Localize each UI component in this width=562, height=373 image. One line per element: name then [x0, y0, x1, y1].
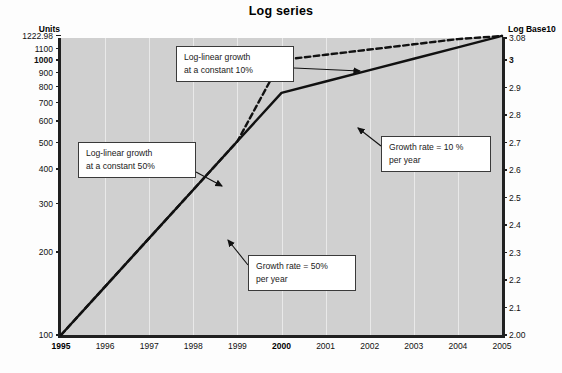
y-axis-label-right-2.1: 2.1: [509, 303, 521, 313]
y-axis-label-right-2.6: 2.6: [509, 165, 521, 175]
y-axis-label-right-2.00: 2.00: [509, 330, 526, 340]
y-tick-right: [502, 87, 507, 89]
y-axis-label-right-3: 3: [509, 55, 514, 65]
x-axis-label-2005: 2005: [493, 341, 512, 351]
gridline-2004: [458, 38, 459, 335]
x-axis-label-1995: 1995: [52, 341, 71, 351]
gridline-2003: [414, 38, 415, 335]
y-tick-left: [56, 251, 61, 253]
y-axis-label-right-2.7: 2.7: [509, 138, 521, 148]
y-tick-left: [56, 59, 61, 61]
x-axis-label-2002: 2002: [360, 341, 379, 351]
x-axis-label-2004: 2004: [448, 341, 467, 351]
y-axis-label-left-300: 300: [39, 199, 53, 209]
y-axis-label-right-2.8: 2.8: [509, 110, 521, 120]
gridline-1997: [149, 38, 150, 335]
y-axis-label-left-900: 900: [39, 68, 53, 78]
y-tick-left: [56, 48, 61, 50]
y-axis-label-right-3.08: 3.08: [509, 33, 526, 43]
y-axis-label-left-800: 800: [39, 82, 53, 92]
plot-area: [58, 38, 505, 338]
callout-log-linear-10: Log-linear growth at a constant 10%: [176, 46, 294, 82]
y-tick-right: [502, 334, 507, 336]
gridline-1998: [193, 38, 194, 335]
y-tick-left: [56, 72, 61, 74]
x-axis-label-1997: 1997: [140, 341, 159, 351]
y-axis-label-left-500: 500: [39, 138, 53, 148]
chart-title: Log series: [0, 4, 562, 18]
y-tick-right: [502, 279, 507, 281]
y-tick-right: [502, 169, 507, 171]
x-axis-label-1999: 1999: [228, 341, 247, 351]
chart-container: Log series Units Log Base10 1222.9811001…: [0, 0, 562, 373]
y-axis-label-left-1000: 1000: [34, 55, 53, 65]
x-axis-label-2001: 2001: [316, 341, 335, 351]
y-axis-label-right-2.2: 2.2: [509, 275, 521, 285]
callout-growth-50: Growth rate = 50% per year: [248, 255, 356, 291]
y-axis-label-left-400: 400: [39, 164, 53, 174]
y-axis-label-left-200: 200: [39, 247, 53, 257]
y-tick-left: [56, 142, 61, 144]
y-axis-label-left-100: 100: [39, 330, 53, 340]
y-tick-right: [502, 252, 507, 254]
y-tick-right: [502, 37, 507, 39]
y-tick-right: [502, 59, 507, 61]
y-axis-label-right-2.9: 2.9: [509, 83, 521, 93]
y-axis-label-right-2.5: 2.5: [509, 193, 521, 203]
y-tick-left: [56, 35, 61, 37]
gridline-2002: [370, 38, 371, 335]
y-axis-label-right-2.4: 2.4: [509, 220, 521, 230]
gridline-2005: [502, 38, 503, 335]
x-axis-label-2003: 2003: [404, 341, 423, 351]
y-tick-right: [502, 307, 507, 309]
y-tick-right: [502, 114, 507, 116]
y-tick-left: [56, 102, 61, 104]
y-tick-left: [56, 86, 61, 88]
x-axis-label-2000: 2000: [272, 341, 291, 351]
gridline-1996: [105, 38, 106, 335]
x-axis-label-1998: 1998: [184, 341, 203, 351]
y-tick-right: [502, 197, 507, 199]
y-tick-left: [56, 203, 61, 205]
y-tick-left: [56, 168, 61, 170]
y-tick-left: [56, 334, 61, 336]
callout-growth-10: Growth rate = 10 % per year: [381, 136, 491, 172]
x-axis-label-1996: 1996: [96, 341, 115, 351]
y-axis-label-left-700: 700: [39, 98, 53, 108]
y-axis-label-right-2.3: 2.3: [509, 248, 521, 258]
y-axis-label-left-1100: 1100: [35, 44, 53, 54]
gridline-1999: [237, 38, 238, 335]
y-tick-left: [56, 120, 61, 122]
y-axis-label-left-600: 600: [39, 116, 53, 126]
callout-log-linear-50: Log-linear growth at a constant 50%: [78, 142, 196, 178]
y-tick-right: [502, 142, 507, 144]
y-tick-right: [502, 224, 507, 226]
y-axis-label-left-1222.98: 1222.98: [22, 31, 53, 41]
